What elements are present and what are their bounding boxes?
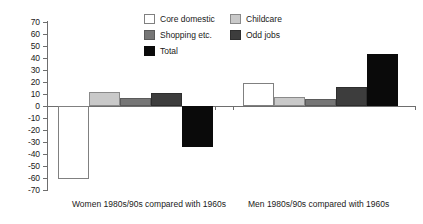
- bar-chart: 706050403020100-10-20-30-40-50-60-70 Cor…: [0, 0, 423, 224]
- legend: Core domestic Childcare Shopping etc. Od…: [144, 14, 329, 62]
- legend-item-core-domestic: Core domestic: [144, 14, 215, 24]
- legend-label-core-domestic: Core domestic: [160, 14, 215, 24]
- legend-item-odd-jobs: Odd jobs: [230, 30, 280, 40]
- bar-odd-jobs-women: [151, 93, 182, 106]
- x-axis-label-men: Men 1980s/90s compared with 1960s: [248, 199, 389, 209]
- bar-childcare-women: [89, 92, 120, 106]
- legend-label-childcare: Childcare: [246, 14, 282, 24]
- bar-core-domestic-men: [243, 83, 274, 106]
- legend-row-3: Total: [144, 46, 329, 62]
- legend-item-total: Total: [144, 46, 178, 56]
- legend-swatch-odd-jobs-icon: [230, 30, 241, 40]
- legend-swatch-shopping-icon: [144, 30, 155, 40]
- bar-shopping-etc-women: [120, 98, 151, 106]
- bar-total-women: [182, 106, 213, 147]
- legend-swatch-total-icon: [144, 46, 155, 56]
- legend-row-2: Shopping etc. Odd jobs: [144, 30, 329, 46]
- legend-label-odd-jobs: Odd jobs: [246, 30, 280, 40]
- bar-shopping-etc-men: [305, 99, 336, 106]
- bar-odd-jobs-men: [336, 87, 367, 106]
- x-axis-label-women: Women 1980s/90s compared with 1960s: [72, 199, 226, 209]
- legend-swatch-core-domestic-icon: [144, 14, 155, 24]
- bar-core-domestic-women: [58, 106, 89, 179]
- bar-total-men: [367, 54, 398, 106]
- legend-label-total: Total: [160, 46, 178, 56]
- legend-label-shopping: Shopping etc.: [160, 30, 212, 40]
- bar-childcare-men: [274, 97, 305, 106]
- legend-swatch-childcare-icon: [230, 14, 241, 24]
- legend-item-childcare: Childcare: [230, 14, 282, 24]
- legend-row-1: Core domestic Childcare: [144, 14, 329, 30]
- legend-item-shopping: Shopping etc.: [144, 30, 212, 40]
